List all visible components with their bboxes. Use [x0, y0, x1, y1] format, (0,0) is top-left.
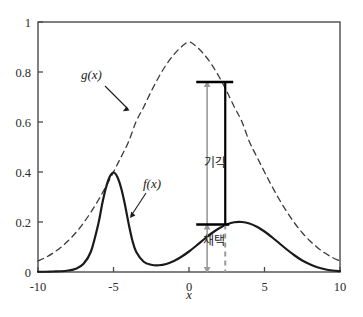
x-tick-label: -5 [108, 280, 118, 294]
y-tick-label: 0 [25, 266, 31, 280]
y-tick-label: 0.2 [15, 216, 31, 230]
reject-region-label: 기각 [204, 156, 226, 170]
y-tick-label: 0.6 [15, 116, 31, 130]
f-leader-line [131, 193, 146, 216]
g-leader-arrowhead [123, 107, 130, 112]
chart-figure: -10-50510 00.20.40.60.81 g(x)f(x)기각채택x [0, 0, 363, 317]
plot-frame [38, 22, 340, 272]
curve-f-target [38, 173, 340, 272]
function-label-f: f(x) [143, 176, 161, 191]
y-axis-tick-labels: 00.20.40.60.81 [15, 16, 31, 280]
accept-region-label: 채택 [203, 234, 225, 248]
y-tick-label: 0.4 [15, 166, 31, 180]
function-label-g: g(x) [81, 67, 102, 82]
y-tick-label: 0.8 [15, 66, 31, 80]
x-axis-title: x [185, 288, 192, 302]
x-tick-label: -10 [30, 280, 47, 294]
x-tick-label: 5 [261, 280, 267, 294]
density-plot-svg: -10-50510 00.20.40.60.81 g(x)f(x)기각채택x [0, 0, 363, 317]
g-leader-line [105, 86, 128, 109]
x-tick-label: 10 [334, 280, 347, 294]
x-axis-ticks [38, 267, 340, 272]
y-axis-ticks [38, 22, 43, 272]
y-tick-label: 1 [25, 16, 31, 30]
